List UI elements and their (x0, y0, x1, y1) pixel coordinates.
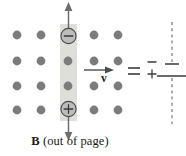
field-dot (114, 82, 123, 91)
equals-sign (128, 68, 140, 74)
field-dot (90, 31, 99, 40)
field-dot (90, 57, 99, 66)
field-dot (13, 82, 22, 91)
field-dot (37, 106, 46, 115)
field-dot (114, 57, 123, 66)
field-symbol: B (31, 134, 39, 148)
field-dot (114, 106, 123, 115)
field-caption-text: (out of page) (40, 134, 109, 148)
field-dot (13, 106, 22, 115)
figure-canvas (0, 0, 186, 156)
field-dot (114, 31, 123, 40)
field-caption: B (out of page) (0, 134, 140, 149)
field-dot (90, 82, 99, 91)
negative-charge (61, 28, 76, 43)
positive-charge (61, 101, 76, 116)
field-dot (37, 57, 46, 66)
velocity-label: v (101, 73, 107, 85)
field-dot (13, 31, 22, 40)
field-dot (13, 57, 22, 66)
field-dot (90, 106, 99, 115)
equivalent-capacitor (148, 22, 186, 124)
field-dot (37, 82, 46, 91)
field-dot (64, 82, 73, 91)
velocity-arrow (84, 66, 114, 73)
field-dot (64, 57, 73, 66)
field-dot (37, 31, 46, 40)
physics-figure: v B (out of page) (0, 0, 186, 156)
